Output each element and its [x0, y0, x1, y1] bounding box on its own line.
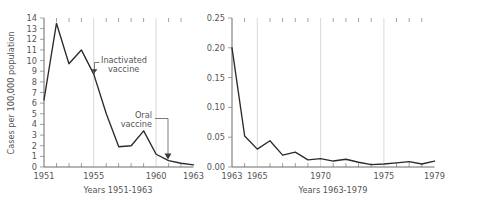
left-ytick-12: 12	[27, 34, 37, 44]
right-x-tick-labels: 1963 1965 1970 1975 1979	[222, 171, 445, 181]
right-xtick-1975: 1975	[373, 171, 394, 181]
right-ytick-020: 0.20	[207, 43, 225, 53]
left-xtick-1960: 1960	[146, 171, 167, 181]
right-ytick-010: 0.10	[207, 102, 225, 112]
right-ytick-015: 0.15	[207, 73, 225, 83]
right-y-ticks	[228, 18, 232, 167]
left-xtick-1955: 1955	[83, 171, 104, 181]
left-ytick-4: 4	[32, 119, 37, 129]
left-chart-panel: 0 1 2 3 4 5 6 7 8 9 10 11 12 13 14 Cases…	[6, 13, 204, 195]
right-xtick-1963: 1963	[222, 171, 243, 181]
right-xtick-1979: 1979	[424, 171, 445, 181]
left-ytick-6: 6	[32, 98, 37, 108]
left-xtick-1951: 1951	[34, 171, 55, 181]
left-y-ticks	[40, 18, 44, 167]
left-x-axis-title: Years 1951-1963	[83, 185, 153, 195]
left-ytick-14: 14	[27, 13, 37, 23]
right-xtick-1965: 1965	[247, 171, 268, 181]
right-ytick-005: 0.05	[207, 132, 225, 142]
right-x-axis-title: Years 1963-1979	[298, 185, 368, 195]
left-ytick-1: 1	[32, 151, 37, 161]
right-y-tick-labels: 0.00 0.05 0.10 0.15 0.20 0.25	[207, 13, 225, 172]
left-ytick-11: 11	[27, 45, 37, 55]
left-gridlines	[94, 18, 156, 167]
left-xtick-1963: 1963	[183, 171, 204, 181]
inactivated-label-line2: vaccine	[108, 64, 139, 74]
right-chart-panel: 0.00 0.05 0.10 0.15 0.20 0.25 1963 1965 …	[207, 13, 445, 195]
left-ytick-13: 13	[27, 24, 37, 34]
left-ytick-3: 3	[32, 130, 37, 140]
left-ytick-9: 9	[32, 66, 37, 76]
left-top-ticks	[57, 18, 182, 22]
figure-canvas: 0 1 2 3 4 5 6 7 8 9 10 11 12 13 14 Cases…	[0, 0, 480, 211]
right-data-series	[232, 48, 435, 165]
left-ytick-7: 7	[32, 88, 37, 98]
left-bottom-ticks	[57, 163, 182, 167]
left-ytick-2: 2	[32, 141, 37, 151]
left-ytick-10: 10	[27, 56, 37, 66]
right-gridlines	[257, 18, 384, 167]
annotation-inactivated-vaccine: Inactivated vaccine	[92, 55, 147, 75]
right-top-ticks	[245, 18, 422, 22]
left-y-tick-labels: 0 1 2 3 4 5 6 7 8 9 10 11 12 13 14	[27, 13, 37, 172]
right-xtick-1970: 1970	[310, 171, 331, 181]
left-data-series	[44, 23, 194, 165]
left-ytick-8: 8	[32, 77, 37, 87]
right-ytick-025: 0.25	[207, 13, 225, 23]
left-x-tick-labels: 1951 1955 1960 1963	[34, 171, 204, 181]
left-y-axis-title: Cases per 100,000 population	[6, 31, 16, 154]
polio-incidence-figure: 0 1 2 3 4 5 6 7 8 9 10 11 12 13 14 Cases…	[0, 0, 480, 211]
oral-label-line2: vaccine	[121, 119, 152, 129]
left-ytick-5: 5	[32, 109, 37, 119]
